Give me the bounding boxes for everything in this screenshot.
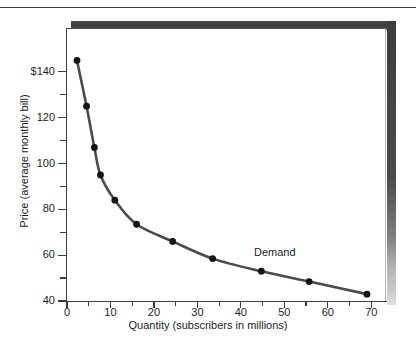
- data-point-marker: [169, 238, 176, 245]
- data-point-marker: [97, 172, 104, 179]
- demand-curve-svg: [0, 0, 416, 343]
- data-point-marker: [364, 291, 371, 298]
- data-point-marker: [91, 144, 98, 151]
- data-point-marker: [111, 197, 118, 204]
- data-point-marker: [133, 221, 140, 228]
- demand-curve-line: [77, 60, 367, 294]
- demand-series-label: Demand: [254, 246, 296, 258]
- data-point-marker: [306, 278, 313, 285]
- y-axis-title: Price (average monthly bill): [18, 51, 30, 271]
- data-point-marker: [83, 103, 90, 110]
- x-axis-title: Quantity (subscribers in millions): [0, 319, 416, 331]
- data-point-marker: [209, 255, 216, 262]
- data-point-marker: [258, 268, 265, 275]
- chart-figure: 406080100120$140 010203040506070 Demand …: [0, 0, 416, 343]
- data-point-marker: [74, 57, 81, 64]
